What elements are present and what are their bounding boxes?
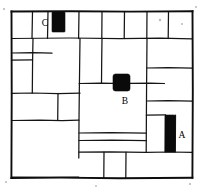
mortar-line xyxy=(146,38,147,152)
dark-block-c xyxy=(52,12,65,32)
label-c: C xyxy=(42,18,48,28)
mortar-line xyxy=(12,53,53,54)
paper-speck xyxy=(95,185,97,187)
paper-speck xyxy=(189,183,191,185)
mortar-line xyxy=(79,133,146,134)
paper-speck xyxy=(5,181,7,183)
paper-speck xyxy=(159,19,161,21)
paper-speck xyxy=(195,6,197,8)
label-b: B xyxy=(122,96,128,106)
mortar-line xyxy=(147,101,193,102)
mortar-line xyxy=(12,120,79,121)
dark-block-b xyxy=(113,74,130,91)
dark-block-a xyxy=(165,115,175,152)
wall-diagram-figure: ABC xyxy=(0,0,203,189)
paper-speck xyxy=(3,8,5,10)
masonry-wall-drawing: ABC xyxy=(0,0,203,189)
mortar-line xyxy=(32,38,33,93)
frame-bottom xyxy=(11,178,192,179)
mortar-line xyxy=(147,68,193,69)
label-a: A xyxy=(179,130,186,140)
mortar-line xyxy=(32,12,33,39)
mortar-line xyxy=(12,93,81,94)
paper-speck xyxy=(181,23,183,25)
mortar-line xyxy=(102,38,103,83)
mortar-line xyxy=(79,140,146,141)
